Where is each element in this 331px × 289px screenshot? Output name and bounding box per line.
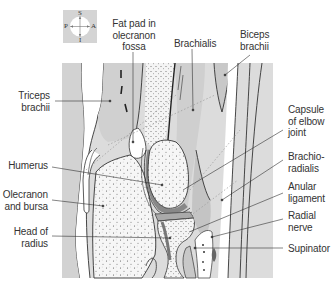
label-brachialis: Brachialis <box>174 38 216 50</box>
compass-anterior: A <box>91 23 96 30</box>
label-line: Radial <box>288 210 316 222</box>
label-line: radius <box>14 238 48 250</box>
label-line: Head of <box>14 226 48 238</box>
diagram-illustration <box>0 0 331 289</box>
compass-posterior: P <box>64 23 68 30</box>
label-line: Capsule <box>288 104 324 116</box>
label-supinator: Supinator <box>288 243 330 255</box>
label-line: Olecranon <box>3 189 48 201</box>
label-biceps-brachii: Biceps brachii <box>240 29 269 52</box>
label-line: of elbow <box>288 116 324 128</box>
label-capsule-of-elbow-joint: Capsule of elbow joint <box>288 104 324 139</box>
label-line: radialis <box>288 163 324 175</box>
label-line: Fat pad in <box>108 18 160 30</box>
label-line: Brachio- <box>288 151 324 163</box>
label-line: Anular <box>288 181 325 193</box>
label-anular-ligament: Anular ligament <box>288 181 325 204</box>
elbow-diagram: S I P A Triceps brachii Humerus Olecrano… <box>0 0 331 289</box>
label-line: nerve <box>288 222 316 234</box>
label-line: joint <box>288 127 324 139</box>
label-fat-pad: Fat pad in olecranon fossa <box>108 18 160 53</box>
label-line: brachii <box>240 41 269 53</box>
label-line: Supinator <box>288 243 330 255</box>
label-line: fossa <box>108 41 160 53</box>
label-head-of-radius: Head of radius <box>14 226 48 249</box>
label-line: ligament <box>288 193 325 205</box>
compass-superior: S <box>78 10 82 17</box>
label-line: Biceps <box>240 29 269 41</box>
compass-inferior: I <box>79 37 81 44</box>
label-olecranon-and-bursa: Olecranon and bursa <box>3 189 48 212</box>
label-line: Brachialis <box>174 38 216 50</box>
label-line: and bursa <box>3 201 48 213</box>
label-triceps-brachii: Triceps brachii <box>18 90 50 113</box>
label-radial-nerve: Radial nerve <box>288 210 316 233</box>
label-brachioradialis: Brachio- radialis <box>288 151 324 174</box>
label-humerus: Humerus <box>8 160 48 172</box>
label-line: Triceps <box>18 90 50 102</box>
label-line: brachii <box>18 102 50 114</box>
label-line: olecranon <box>108 30 160 42</box>
label-line: Humerus <box>8 160 48 172</box>
